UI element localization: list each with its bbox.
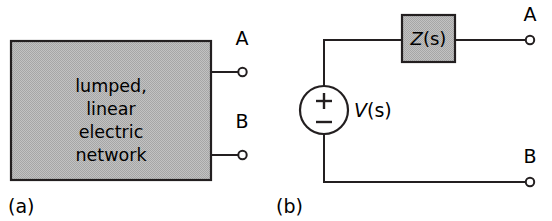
terminal-a-dot — [238, 68, 246, 76]
panel-b-drawing: Z(s) V(s) A B (b) — [276, 0, 552, 221]
impedance-label-arg: (s) — [423, 28, 446, 49]
impedance-label: Z(s) — [410, 28, 447, 49]
impedance-label-symbol: Z — [410, 28, 424, 49]
network-text-line-2: linear — [86, 99, 136, 119]
panel-a-drawing: lumped, linear electric network A B (a) — [0, 0, 276, 221]
network-text-line-3: electric — [79, 122, 144, 142]
circuit-figure: lumped, linear electric network A B (a) — [0, 0, 552, 221]
panel-b: Z(s) V(s) A B (b) — [276, 0, 552, 221]
voltage-source-label: V(s) — [354, 99, 392, 121]
network-text-line-1: lumped, — [75, 76, 147, 96]
terminal-a-dot — [526, 36, 534, 44]
terminal-b-dot — [526, 178, 534, 186]
terminal-a-label: A — [524, 3, 537, 25]
terminal-b-dot — [238, 151, 246, 159]
network-text-line-4: network — [75, 145, 147, 165]
voltage-source-label-arg: (s) — [367, 99, 392, 121]
panel-b-caption: (b) — [276, 195, 303, 217]
panel-a-caption: (a) — [8, 195, 34, 217]
terminal-b-label: B — [235, 110, 248, 132]
terminal-a-label: A — [236, 27, 249, 49]
panel-a: lumped, linear electric network A B (a) — [0, 0, 276, 221]
terminal-b-label: B — [523, 145, 536, 167]
